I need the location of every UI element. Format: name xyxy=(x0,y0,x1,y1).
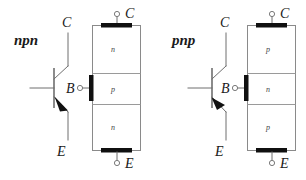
npn-structure-base-label: B xyxy=(66,81,75,96)
npn-structure-body xyxy=(93,26,141,151)
pnp-structure-group: C p n p B E xyxy=(221,6,296,171)
pnp-structure-layer-middle-label: n xyxy=(266,85,270,94)
pnp-structure-collector-pin xyxy=(269,11,274,16)
npn-symbol-collector-label: C xyxy=(62,15,72,30)
pnp-structure-layer-bottom-label: p xyxy=(265,123,270,132)
npn-symbol-emitter-arrow xyxy=(55,97,69,112)
npn-structure-collector-label: C xyxy=(125,6,135,21)
pnp-symbol-collector-label: C xyxy=(220,15,230,30)
npn-structure-group: C n p n B E xyxy=(66,6,141,171)
npn-structure-emitter-label: E xyxy=(124,156,134,171)
pnp-structure-layer-top-label: p xyxy=(265,45,270,54)
npn-structure-layer-top-label: n xyxy=(111,45,115,54)
pnp-type-label: pnp xyxy=(170,32,196,48)
pnp-structure-collector-contact xyxy=(256,23,287,28)
npn-structure-emitter-pin xyxy=(114,160,119,165)
npn-symbol-collector-slant xyxy=(54,66,68,79)
pnp-structure-emitter-label: E xyxy=(279,156,289,171)
figure-canvas: npn C E C xyxy=(0,0,306,180)
npn-symbol-emitter-label: E xyxy=(56,144,66,159)
pnp-structure-emitter-pin xyxy=(269,160,274,165)
pnp-structure-base-label: B xyxy=(221,81,230,96)
npn-structure-collector-contact xyxy=(101,23,132,28)
npn-structure-base-contact xyxy=(89,75,94,101)
npn-structure-layer-middle-label: p xyxy=(110,85,115,94)
npn-structure-base-pin xyxy=(77,85,82,90)
pnp-symbol-collector-slant xyxy=(212,66,226,79)
npn-type-label: npn xyxy=(14,32,38,48)
pnp-structure-body xyxy=(248,26,296,151)
pnp-structure-collector-label: C xyxy=(280,6,290,21)
pnp-structure-base-contact xyxy=(244,75,249,101)
npn-symbol-group: npn C E xyxy=(14,15,72,159)
pnp-symbol-emitter-label: E xyxy=(214,144,224,159)
pnp-structure-base-pin xyxy=(232,85,237,90)
npn-structure-collector-pin xyxy=(114,11,119,16)
npn-structure-layer-bottom-label: n xyxy=(111,123,115,132)
transistor-figure: npn C E C xyxy=(0,0,306,180)
